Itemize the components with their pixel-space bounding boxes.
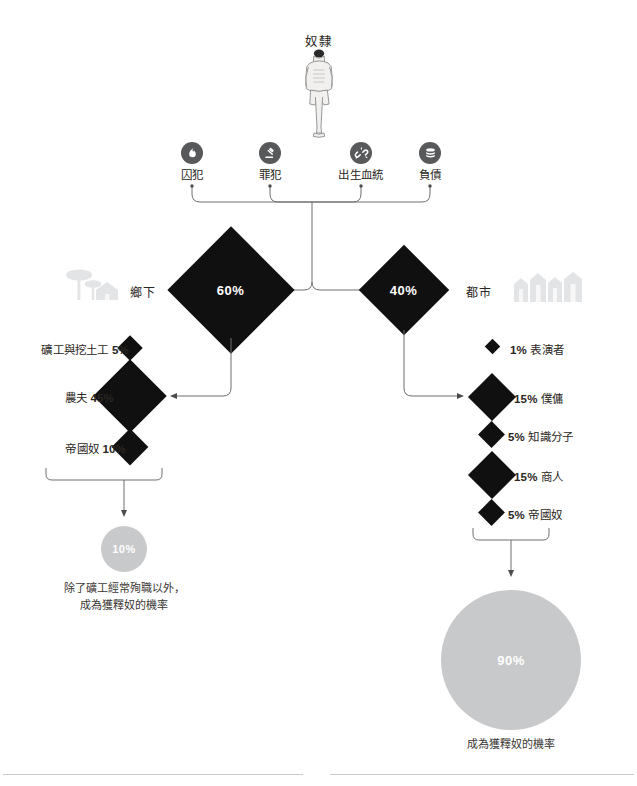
rural-occupation-label-farmer: 農夫 45%	[65, 389, 114, 405]
sources-connector-lines	[0, 142, 637, 252]
footer-rule-left	[3, 774, 303, 775]
rural-region-label: 鄉下	[130, 283, 156, 300]
urban-occupation-label-intellectual: 5% 知識分子	[508, 428, 573, 444]
urban-occupation-label-merchant: 15% 商人	[514, 468, 563, 484]
slave-sources-group: 囚犯 罪犯	[0, 142, 637, 222]
rural-outcome-connector	[0, 462, 320, 532]
urban-occupation-diamond-merchant	[468, 451, 516, 499]
urban-occupation-label-servant: 15% 僕傭	[514, 390, 563, 406]
urban-manumission-value: 90%	[497, 653, 525, 668]
rural-share-value: 60%	[217, 283, 245, 298]
urban-manumission-caption: 成為獲釋奴的機率	[421, 736, 601, 753]
urban-occupation-label-performer: 1% 表演者	[510, 341, 564, 357]
tree-house-icon	[62, 266, 124, 304]
urban-region-label: 都市	[466, 283, 492, 300]
urban-share-value: 40%	[390, 283, 418, 298]
footer-rule-right	[330, 774, 634, 775]
standing-slave-figure-icon	[289, 48, 349, 140]
urban-manumission-circle: 90%	[441, 590, 581, 730]
urban-outcome-connector	[330, 520, 630, 595]
rural-occupation-label-miner: 礦工與挖土工 5%	[41, 341, 129, 357]
rural-manumission-caption: 除了礦工經常殉職以外， 成為獲釋奴的機率	[24, 580, 224, 614]
infographic-canvas: 奴隸 囚	[0, 0, 637, 786]
rural-manumission-circle: 10%	[101, 526, 147, 572]
rural-manumission-value: 10%	[112, 543, 136, 555]
city-buildings-icon	[512, 272, 586, 302]
